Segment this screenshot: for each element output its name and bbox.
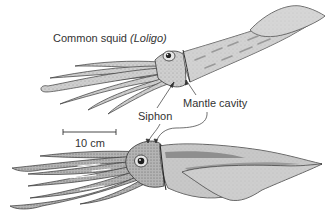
scale-bar — [63, 129, 116, 135]
squid-top-eye-icon — [163, 51, 175, 61]
label-mantle-cavity: Mantle cavity — [183, 97, 247, 109]
squid-diagram: Common squid (Loligo) Siphon Mantle cavi… — [0, 0, 329, 216]
scale-bar-label: 10 cm — [75, 137, 105, 149]
squid-bottom — [10, 141, 322, 209]
squid-bottom-eye-icon — [135, 155, 148, 167]
title-genus: (Loligo) — [130, 32, 167, 44]
label-siphon: Siphon — [138, 110, 172, 122]
title-common-name: Common squid — [53, 32, 127, 44]
squid-top-arms — [41, 61, 168, 114]
figure-title: Common squid (Loligo) — [53, 32, 167, 44]
